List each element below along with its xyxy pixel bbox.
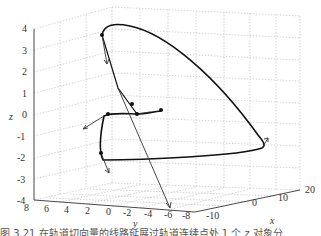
svg-text:-10: -10 xyxy=(206,210,219,221)
svg-text:3: 3 xyxy=(22,45,27,56)
svg-text:-2: -2 xyxy=(123,207,131,218)
svg-text:0: 0 xyxy=(252,197,257,208)
svg-text:2: 2 xyxy=(22,66,27,77)
svg-text:4: 4 xyxy=(22,23,27,34)
z-axis-label: z xyxy=(8,111,13,122)
svg-text:-2: -2 xyxy=(17,152,25,163)
svg-text:8: 8 xyxy=(24,202,29,213)
figure-caption: 图 3.21 在轨道切向量的线路延展过轨道连续点处 1 个 z 对象分 xyxy=(0,225,321,236)
direction-arrows xyxy=(83,35,268,208)
svg-text:2: 2 xyxy=(85,205,90,216)
svg-text:6: 6 xyxy=(44,203,49,214)
svg-text:-6: -6 xyxy=(164,209,172,220)
svg-text:20: 20 xyxy=(305,184,315,195)
grid-back-wall xyxy=(34,7,300,210)
chart-3d-plot: 4 3 2 1 0 -1 -2 -3 -4 z 8 6 4 2 0 -2 -4 … xyxy=(0,0,321,236)
svg-text:-8: -8 xyxy=(182,210,190,221)
x-axis-ticks: -10 0 10 20 xyxy=(206,184,315,221)
svg-text:-4: -4 xyxy=(144,208,152,219)
svg-text:-3: -3 xyxy=(17,174,25,185)
axes xyxy=(34,29,300,212)
svg-text:-1: -1 xyxy=(17,131,25,142)
marked-points xyxy=(99,33,163,155)
z-axis-ticks: 4 3 2 1 0 -1 -2 -3 -4 xyxy=(17,23,27,206)
svg-text:10: 10 xyxy=(278,192,288,203)
svg-text:1: 1 xyxy=(22,88,27,99)
y-axis-ticks: 8 6 4 2 0 -2 -4 -6 -8 xyxy=(24,202,190,221)
svg-text:4: 4 xyxy=(64,204,69,215)
trajectory-tail xyxy=(118,88,170,208)
svg-text:0: 0 xyxy=(22,109,27,120)
svg-text:0: 0 xyxy=(106,206,111,217)
